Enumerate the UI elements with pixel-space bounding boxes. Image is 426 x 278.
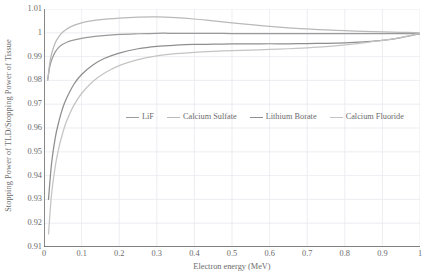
- legend-item-label: Lithium Borate: [266, 113, 317, 121]
- plot-area: [44, 9, 420, 247]
- x-tick-label: 0.6: [255, 250, 285, 258]
- y-tick-label: 0.97: [18, 100, 42, 108]
- legend-line-swatch: [126, 117, 139, 118]
- x-axis-title: Electron energy (MeV): [44, 262, 420, 271]
- x-tick-label: 0.4: [179, 250, 209, 258]
- y-tick-label: 0.93: [18, 195, 42, 203]
- x-tick-label: 0.3: [142, 250, 172, 258]
- x-tick-label: 0.1: [67, 250, 97, 258]
- y-tick-label: 0.99: [18, 52, 42, 60]
- legend-item-label: LiF: [142, 113, 154, 121]
- legend-item[interactable]: Calcium Sulfate: [167, 113, 237, 121]
- x-tick-label: 0.7: [292, 250, 322, 258]
- y-tick-label: 1.01: [18, 5, 42, 13]
- x-tick-label: 0: [29, 250, 59, 258]
- y-tick-label: 0.95: [18, 148, 42, 156]
- series-line-calcium-fluoride: [49, 34, 420, 234]
- plot-canvas: [44, 9, 420, 247]
- legend-item[interactable]: LiF: [126, 113, 154, 121]
- legend-item-label: Calcium Sulfate: [183, 113, 237, 121]
- legend-item-label: Calcium Fluoride: [346, 113, 404, 121]
- gridlines: [44, 9, 420, 247]
- x-tick-label: 0.2: [104, 250, 134, 258]
- y-axis-title-label: Stopping Power of TLD/Stopping Power of …: [4, 39, 13, 212]
- y-axis-tick-labels: 0.910.920.930.940.950.960.970.980.9911.0…: [14, 0, 42, 278]
- y-tick-label: 1: [18, 29, 42, 37]
- chart-legend: LiFCalcium SulfateLithium BorateCalcium …: [126, 113, 404, 121]
- y-tick-label: 0.94: [18, 171, 42, 179]
- x-tick-label: 0.5: [217, 250, 247, 258]
- line-chart: Stopping Power of TLD/Stopping Power of …: [0, 0, 426, 278]
- x-tick-label: 1: [405, 250, 426, 258]
- y-tick-label: 0.92: [18, 219, 42, 227]
- legend-item[interactable]: Lithium Borate: [250, 113, 317, 121]
- series-lines: [48, 17, 420, 234]
- y-tick-label: 0.96: [18, 124, 42, 132]
- x-tick-label: 0.9: [367, 250, 397, 258]
- legend-line-swatch: [250, 117, 263, 118]
- legend-item[interactable]: Calcium Fluoride: [330, 113, 404, 121]
- y-tick-label: 0.98: [18, 76, 42, 84]
- legend-line-swatch: [330, 117, 343, 118]
- x-tick-label: 0.8: [330, 250, 360, 258]
- series-line-calcium-sulfate: [48, 17, 420, 81]
- legend-line-swatch: [167, 117, 180, 118]
- x-axis-title-label: Electron energy (MeV): [193, 262, 270, 271]
